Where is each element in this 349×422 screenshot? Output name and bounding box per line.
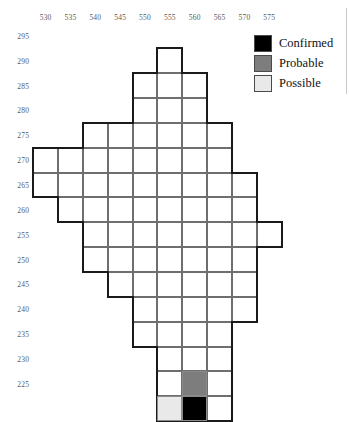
y-tick-245: 245 xyxy=(17,280,29,289)
x-tick-565: 565 xyxy=(214,13,226,22)
y-tick-270: 270 xyxy=(17,156,29,165)
grid-cell-557.5-257.5 xyxy=(182,222,207,247)
y-tick-290: 290 xyxy=(17,56,29,65)
outline-segment xyxy=(132,97,134,124)
outline-segment xyxy=(206,122,233,124)
outline-segment xyxy=(82,122,84,149)
x-tick-570: 570 xyxy=(238,13,250,22)
outline-segment xyxy=(256,246,258,273)
grid-cell-557.5-227.5 xyxy=(182,371,207,396)
legend-item-confirmed: Confirmed xyxy=(254,33,333,53)
y-tick-280: 280 xyxy=(17,106,29,115)
grid-cell-557.5-252.5 xyxy=(182,247,207,272)
x-tick-560: 560 xyxy=(189,13,201,22)
outline-segment xyxy=(256,172,258,199)
outline-segment xyxy=(181,47,183,74)
x-tick-545: 545 xyxy=(114,13,126,22)
legend-item-possible: Possible xyxy=(254,73,333,93)
grid-cell-552.5-272.5 xyxy=(157,148,182,173)
page-rule xyxy=(346,8,347,94)
grid-cell-552.5-267.5 xyxy=(157,173,182,198)
grid-cell-552.5-227.5 xyxy=(157,371,182,396)
grid-cell-552.5-282.5 xyxy=(157,98,182,123)
grid-cell-557.5-262.5 xyxy=(182,197,207,222)
grid-cell-527.5-267.5 xyxy=(33,173,58,198)
grid-cell-552.5-237.5 xyxy=(157,322,182,347)
outline-segment xyxy=(82,221,84,248)
grid-cell-557.5-287.5 xyxy=(182,73,207,98)
x-tick-550: 550 xyxy=(139,13,151,22)
y-tick-265: 265 xyxy=(17,181,29,190)
outline-segment xyxy=(32,147,59,149)
grid-cell-552.5-262.5 xyxy=(157,197,182,222)
outline-segment xyxy=(231,172,258,174)
legend-item-probable: Probable xyxy=(254,53,333,73)
grid-cell-552.5-292.5 xyxy=(157,48,182,73)
outline-segment xyxy=(82,246,84,273)
grid-cell-557.5-267.5 xyxy=(182,173,207,198)
x-tick-575: 575 xyxy=(263,13,275,22)
outline-segment xyxy=(132,296,134,323)
legend-swatch-probable xyxy=(254,55,272,72)
outline-segment xyxy=(256,196,258,223)
grid-cell-542.5-252.5 xyxy=(108,247,133,272)
grid-cell-542.5-247.5 xyxy=(108,272,133,297)
grid-cell-567.5-267.5 xyxy=(232,173,257,198)
grid-cell-562.5-242.5 xyxy=(207,297,232,322)
y-tick-230: 230 xyxy=(17,354,29,363)
grid-cell-542.5-267.5 xyxy=(108,173,133,198)
outline-segment xyxy=(156,346,158,373)
outline-segment xyxy=(256,221,283,223)
outline-segment xyxy=(281,221,283,248)
grid-cell-547.5-242.5 xyxy=(133,297,158,322)
grid-cell-547.5-247.5 xyxy=(133,272,158,297)
grid-cell-537.5-257.5 xyxy=(83,222,108,247)
outline-segment xyxy=(107,271,109,298)
grid-cell-542.5-272.5 xyxy=(108,148,133,173)
legend-label-confirmed: Confirmed xyxy=(279,37,333,50)
outline-segment xyxy=(132,72,134,99)
grid-cell-562.5-262.5 xyxy=(207,197,232,222)
grid-cell-547.5-262.5 xyxy=(133,197,158,222)
outline-segment xyxy=(156,370,158,397)
outline-segment xyxy=(57,221,84,223)
grid-cell-542.5-262.5 xyxy=(108,197,133,222)
grid-cell-567.5-252.5 xyxy=(232,247,257,272)
outline-segment xyxy=(82,271,109,273)
grid-cell-547.5-252.5 xyxy=(133,247,158,272)
grid-cell-537.5-272.5 xyxy=(83,148,108,173)
grid-cell-537.5-277.5 xyxy=(83,123,108,148)
y-tick-235: 235 xyxy=(17,330,29,339)
grid-cell-537.5-252.5 xyxy=(83,247,108,272)
outline-segment xyxy=(132,321,134,348)
legend-swatch-confirmed xyxy=(254,35,272,52)
grid-cell-567.5-257.5 xyxy=(232,222,257,247)
grid-cell-547.5-287.5 xyxy=(133,73,158,98)
grid-cell-552.5-222.5 xyxy=(157,396,182,421)
grid-cell-557.5-272.5 xyxy=(182,148,207,173)
grid-cell-572.5-257.5 xyxy=(257,222,282,247)
outline-segment xyxy=(132,346,159,348)
y-tick-285: 285 xyxy=(17,81,29,90)
grid-cell-562.5-257.5 xyxy=(207,222,232,247)
legend-swatch-possible xyxy=(254,75,272,92)
outline-segment xyxy=(231,122,233,149)
grid-cell-537.5-262.5 xyxy=(83,197,108,222)
outline-segment xyxy=(57,147,84,149)
legend-label-probable: Probable xyxy=(279,57,323,70)
grid-cell-567.5-247.5 xyxy=(232,272,257,297)
y-tick-225: 225 xyxy=(17,379,29,388)
outline-segment xyxy=(156,47,158,74)
grid-cell-557.5-247.5 xyxy=(182,272,207,297)
y-tick-250: 250 xyxy=(17,255,29,264)
y-tick-295: 295 xyxy=(17,31,29,40)
y-tick-240: 240 xyxy=(17,305,29,314)
outline-segment xyxy=(132,72,159,74)
outline-segment xyxy=(256,246,283,248)
grid-cell-532.5-267.5 xyxy=(58,173,83,198)
x-tick-530: 530 xyxy=(40,13,52,22)
grid-cell-552.5-277.5 xyxy=(157,123,182,148)
legend-label-possible: Possible xyxy=(279,77,321,90)
outline-segment xyxy=(32,147,34,174)
grid-cell-552.5-232.5 xyxy=(157,347,182,372)
